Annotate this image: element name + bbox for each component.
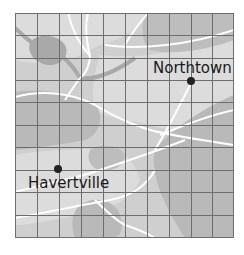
city-marker-havertville [54,165,62,173]
city-marker-northtown [187,77,195,85]
map-canvas [0,0,244,255]
city-label-northtown: Northtown [153,61,232,76]
city-label-havertville: Havertville [28,176,109,191]
